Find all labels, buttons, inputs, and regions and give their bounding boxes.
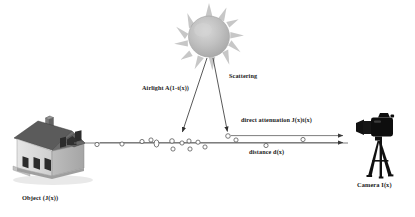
particle [140, 139, 144, 143]
particle [149, 138, 153, 142]
camera-label: Camera I(x) [357, 182, 392, 188]
diagram-vector-layer [0, 0, 415, 217]
particle [154, 140, 159, 147]
sun-icon [174, 3, 244, 71]
object-label: Object (J(x)) [22, 195, 58, 201]
distance-label: distance d(x) [249, 149, 284, 155]
particle [234, 138, 238, 142]
particle [171, 147, 175, 151]
diagram-canvas: Airlight A(1-t(x)) Scattering direct att… [0, 0, 415, 217]
particle [196, 140, 200, 144]
direct-attenuation-label: direct attenuation J(x)t(x) [241, 117, 312, 123]
particle [170, 139, 175, 144]
scattering-ray [213, 58, 227, 132]
particle [203, 145, 207, 149]
house-icon [13, 116, 93, 185]
particle [226, 134, 231, 139]
particle [187, 139, 191, 143]
camera-icon [356, 113, 394, 179]
scattering-label: Scattering [229, 73, 257, 79]
particle [120, 142, 124, 146]
particle [301, 137, 305, 141]
particle [180, 141, 184, 145]
particle [264, 143, 268, 147]
particle [95, 142, 99, 146]
airlight-label: Airlight A(1-t(x)) [142, 85, 189, 91]
particle [188, 147, 192, 151]
